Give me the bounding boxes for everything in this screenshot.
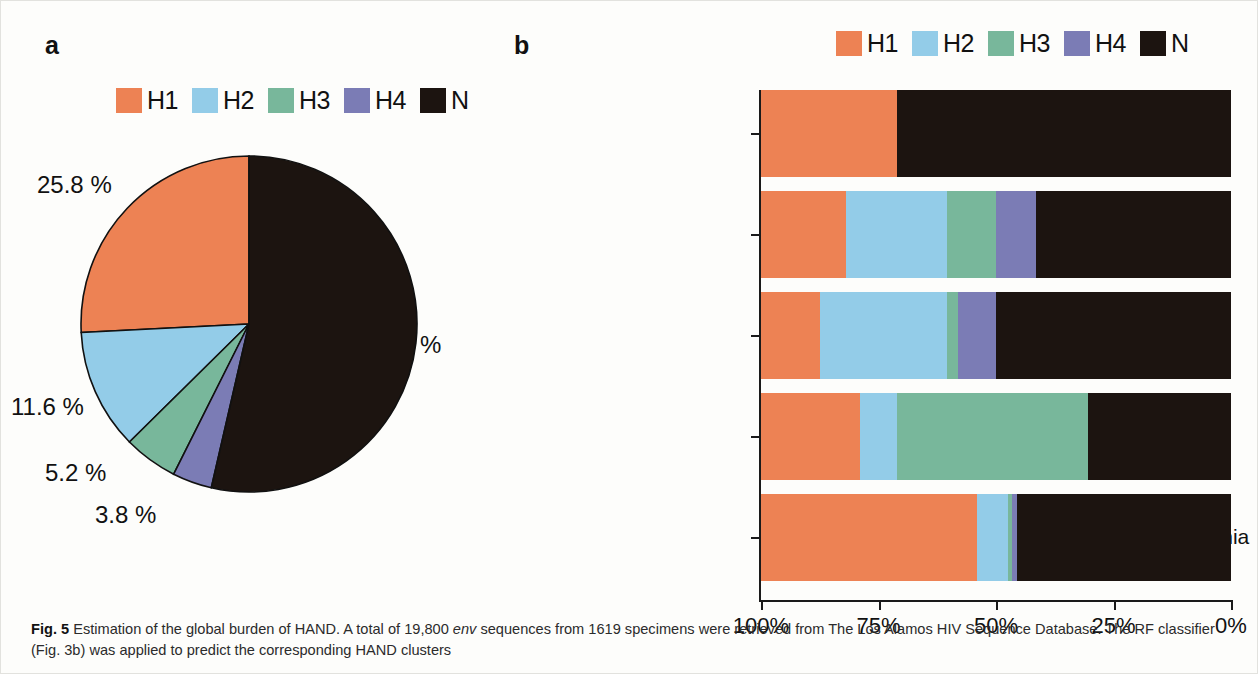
- panel-a-letter: a: [45, 31, 59, 60]
- bar-row: [761, 292, 1231, 379]
- legend-item-h2: H2: [192, 86, 268, 115]
- caption-figure-number: Fig. 5: [31, 621, 69, 637]
- legend-item-h1: H1: [116, 86, 192, 115]
- pie-label-h4: 3.8 %: [95, 501, 156, 529]
- bar-segment-h1: [761, 292, 820, 379]
- pie-label-h2: 11.6 %: [11, 393, 84, 421]
- x-axis-tick: [996, 600, 998, 610]
- legend-item-h2: H2: [912, 29, 988, 58]
- bar-segment-h2: [846, 191, 947, 278]
- bar-segment-h2: [860, 393, 898, 480]
- pie-chart-panel-a: 25.8 % 11.6 % 5.2 % 3.8 % %: [79, 129, 419, 519]
- y-axis-tick: [751, 537, 760, 539]
- legend-label-n: N: [451, 86, 469, 115]
- legend-label-h2: H2: [223, 86, 254, 115]
- legend-swatch-h4: [1064, 31, 1090, 56]
- bar-segment-h2: [820, 292, 947, 379]
- legend-label-h4: H4: [375, 86, 406, 115]
- bar-row: [761, 90, 1231, 177]
- y-axis-tick: [751, 234, 760, 236]
- legend-label-h3: H3: [299, 86, 330, 115]
- y-axis-tick: [751, 436, 760, 438]
- legend-item-n: N: [1140, 29, 1203, 58]
- bar-segment-n: [1017, 494, 1231, 581]
- legend-swatch-h3: [988, 31, 1014, 56]
- bar-row: [761, 393, 1231, 480]
- figure-frame: a b H1 H2 H3 H4 N H1 H2: [0, 0, 1258, 674]
- legend-swatch-n: [420, 88, 446, 113]
- bar-plot-area: [761, 90, 1231, 600]
- pie-label-n: %: [420, 331, 441, 359]
- pie-label-h3: 5.2 %: [45, 459, 106, 487]
- bar-chart-panel-b: Sub–Saharan AfricaNorth AmericaEuropeCar…: [513, 76, 1243, 606]
- legend-label-n: N: [1171, 29, 1189, 58]
- x-axis-tick: [879, 600, 881, 610]
- bar-segment-h3: [947, 292, 959, 379]
- bar-segment-h4: [996, 191, 1036, 278]
- legend-swatch-h2: [912, 31, 938, 56]
- legend-item-h4: H4: [344, 86, 420, 115]
- caption-italic-env: env: [453, 621, 477, 637]
- bar-row: [761, 191, 1231, 278]
- x-axis-tick: [761, 600, 763, 610]
- caption-text-1: Estimation of the global burden of HAND.…: [69, 621, 453, 637]
- legend-swatch-h1: [116, 88, 142, 113]
- bar-segment-n: [897, 90, 1231, 177]
- legend-panel-a: H1 H2 H3 H4 N: [116, 86, 482, 115]
- x-axis-tick: [1114, 600, 1116, 610]
- bar-segment-n: [1088, 393, 1231, 480]
- legend-swatch-h3: [268, 88, 294, 113]
- bar-segment-h2: [977, 494, 1008, 581]
- y-axis-tick: [751, 335, 760, 337]
- legend-item-h1: H1: [836, 29, 912, 58]
- bar-segment-h3: [947, 191, 996, 278]
- legend-item-h4: H4: [1064, 29, 1140, 58]
- legend-label-h1: H1: [867, 29, 898, 58]
- legend-item-n: N: [420, 86, 483, 115]
- bar-segment-n: [1036, 191, 1231, 278]
- y-axis-tick: [751, 133, 760, 135]
- panel-b-letter: b: [514, 31, 529, 60]
- bar-segment-h1: [761, 191, 846, 278]
- legend-label-h3: H3: [1019, 29, 1050, 58]
- figure-caption: Fig. 5 Estimation of the global burden o…: [31, 619, 1236, 660]
- legend-swatch-n: [1140, 31, 1166, 56]
- legend-swatch-h1: [836, 31, 862, 56]
- legend-item-h3: H3: [988, 29, 1064, 58]
- bar-segment-h1: [761, 494, 977, 581]
- legend-label-h2: H2: [943, 29, 974, 58]
- pie-label-h1: 25.8 %: [37, 171, 112, 199]
- bar-segment-h4: [958, 292, 996, 379]
- bar-segment-h1: [761, 90, 897, 177]
- bar-segment-n: [996, 292, 1231, 379]
- pie-slices: [81, 156, 417, 492]
- x-axis-line: [759, 600, 1231, 602]
- bar-row: [761, 494, 1231, 581]
- x-axis-tick: [1231, 600, 1233, 610]
- pie-chart-svg: [79, 129, 419, 519]
- bar-segment-h3: [897, 393, 1087, 480]
- bar-segment-h1: [761, 393, 860, 480]
- legend-swatch-h2: [192, 88, 218, 113]
- legend-swatch-h4: [344, 88, 370, 113]
- legend-label-h1: H1: [147, 86, 178, 115]
- legend-item-h3: H3: [268, 86, 344, 115]
- legend-panel-b: H1 H2 H3 H4 N: [836, 29, 1202, 58]
- legend-label-h4: H4: [1095, 29, 1126, 58]
